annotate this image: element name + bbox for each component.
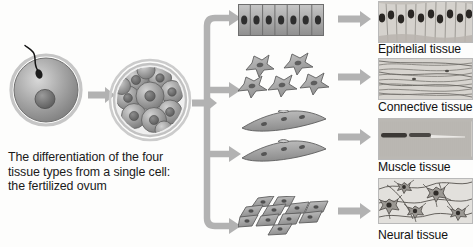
differentiation-diagram: Epithelial tissue Connective tissue [0,0,473,247]
stellate-fibroblast-cells [238,52,330,102]
columnar-epithelium-micrograph [378,1,473,43]
columnar-epithelial-cell-row [238,4,324,36]
label-muscle-tissue: Muscle tissue [378,160,451,174]
multinucleated-muscle-fibers [238,110,330,166]
caption-line-2: tissue types from a single cell: [8,165,208,180]
striated-muscle-micrograph [378,118,473,160]
figure-caption: The differentiation of the four tissue t… [8,150,208,194]
morula-illustration [106,56,194,144]
neuron-network-micrograph [378,178,473,224]
fertilized-ovum-illustration [4,44,88,128]
arrow-to-neural-micrograph [338,202,372,220]
collagen-fiber-micrograph [378,58,473,100]
label-epithelial-tissue: Epithelial tissue [378,42,461,56]
caption-line-1: The differentiation of the four [8,150,208,165]
ovum-nucleus [35,89,55,108]
label-neural-tissue: Neural tissue [378,228,448,242]
branch-to-epithelial [207,18,230,26]
clustered-neural-cells [238,196,334,242]
arrow-to-epithelial-micrograph [338,10,372,28]
label-connective-tissue: Connective tissue [378,100,473,114]
arrow-to-connective-micrograph [338,68,372,86]
branch-to-neural [207,218,230,226]
caption-line-3: the fertilized ovum [8,179,208,194]
arrow-to-muscle-micrograph [338,128,372,146]
